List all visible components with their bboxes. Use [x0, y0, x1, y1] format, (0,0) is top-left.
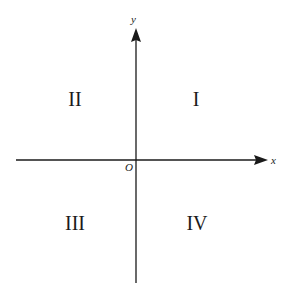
quadrant-2-label: II [68, 88, 81, 110]
x-axis-label: x [270, 154, 276, 166]
quadrant-3-label: III [65, 212, 85, 234]
y-axis-arrow-icon [131, 28, 141, 42]
quadrant-4-label: IV [186, 212, 208, 234]
quadrant-1-label: I [193, 88, 200, 110]
coordinate-plane: y x O II I III IV [0, 0, 288, 303]
origin-label: O [125, 161, 133, 173]
x-axis-arrow-icon [254, 155, 268, 165]
y-axis-label: y [130, 13, 136, 25]
